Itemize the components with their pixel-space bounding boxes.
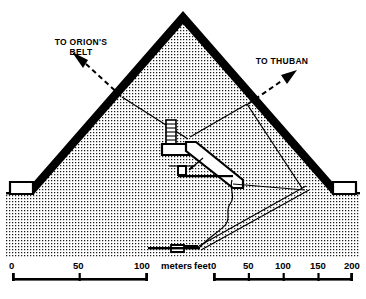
annotation-label-thuban: TO THUBAN [246,57,318,67]
orion-dashed-arrow [72,52,121,96]
scale-meters-tick-50: 50 [73,260,84,271]
entrance-notch-left [10,182,33,194]
pyramid-cross-section-figure: TO ORION'S BELT TO THUBAN 0 50 100 meter… [0,0,366,299]
scale-meters-tick-100: 100 [134,260,150,271]
scale-feet-tick-200: 200 [344,260,360,271]
thuban-dashed-arrow [248,70,297,104]
scale-feet-tick-100: 100 [275,260,291,271]
scale-meters-tick-0: 0 [9,260,14,271]
relieving-chambers [166,120,176,144]
scale-feet-unit-label: feet [194,260,211,271]
scale-feet-tick-0: 0 [211,260,216,271]
scale-feet-tick-50: 50 [243,260,254,271]
scale-feet-tick-150: 150 [310,260,326,271]
scale-bar-meters [12,273,148,281]
entrance-notch-right [333,182,356,194]
annotation-label-orion: TO ORION'S BELT [44,38,118,57]
scale-meters-unit-label: meters [161,260,192,271]
scale-bar-feet [213,273,353,281]
